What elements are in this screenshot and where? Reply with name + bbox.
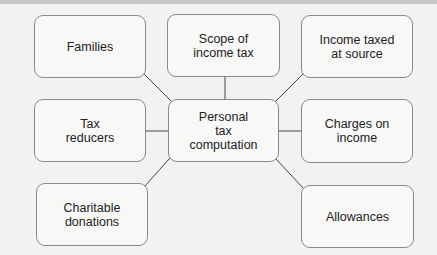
edge-income-taxed [275, 72, 305, 102]
node-label: Allowances [326, 210, 389, 224]
node-scope-of-income-tax: Scope of income tax [167, 14, 280, 77]
node-label: Families [67, 40, 114, 54]
edge-allowances [276, 159, 304, 189]
node-label: Tax reducers [66, 117, 115, 145]
node-label: Charges on income [325, 117, 390, 145]
node-families: Families [34, 15, 146, 78]
node-allowances: Allowances [301, 185, 414, 248]
node-charitable-donations: Charitable donations [36, 183, 148, 246]
node-label: Charitable donations [64, 201, 121, 229]
node-tax-reducers: Tax reducers [34, 99, 146, 162]
edge-families [143, 73, 171, 101]
edge-charitable [144, 158, 170, 187]
node-charges-on-income: Charges on income [301, 99, 413, 163]
node-personal-tax-computation: Personal tax computation [168, 99, 279, 162]
node-label: Scope of income tax [193, 32, 253, 60]
node-label: Income taxed at source [319, 33, 394, 61]
center-label: Personal tax computation [189, 110, 257, 152]
node-income-taxed-at-source: Income taxed at source [301, 15, 413, 78]
